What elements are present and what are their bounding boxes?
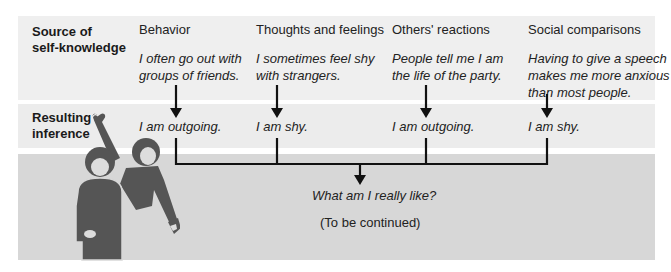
arrow-head-icon [354,175,366,185]
arrow-head-icon [271,108,283,118]
two-people-figure-icon [60,110,180,270]
arrow-head-icon [541,108,553,118]
arrow-head-icon [420,108,432,118]
